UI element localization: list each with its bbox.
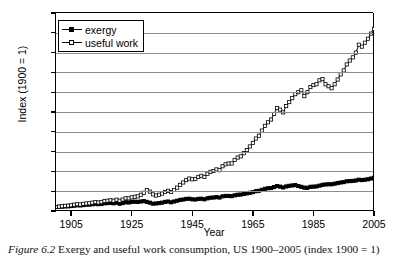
- gridline: [56, 152, 373, 153]
- gridline: [56, 191, 373, 192]
- y-tick-mark: [51, 32, 56, 33]
- gridline: [56, 92, 373, 93]
- y-tick-mark: [51, 191, 56, 192]
- x-tick-label: 2005: [351, 218, 397, 230]
- x-tick-mark: [192, 211, 193, 216]
- y-tick-mark: [51, 12, 56, 13]
- x-tick-mark: [252, 211, 253, 216]
- x-tick-label: 1925: [109, 218, 155, 230]
- figure-caption: Figure 6.2 Exergy and useful work consum…: [8, 243, 400, 256]
- y-tick-mark: [51, 111, 56, 112]
- x-tick-mark: [313, 211, 314, 216]
- x-tick-mark: [131, 211, 132, 216]
- chart-area: Index (1900 = 1) Year 051015202530354045…: [0, 0, 405, 238]
- gridline: [56, 72, 373, 73]
- y-tick-mark: [51, 210, 56, 211]
- figure-container: Index (1900 = 1) Year 051015202530354045…: [0, 0, 405, 278]
- legend-label-useful-work: useful work: [82, 37, 138, 49]
- legend-label-exergy: exergy: [82, 24, 117, 36]
- y-tick-mark: [51, 171, 56, 172]
- chart-legend: exergy useful work: [58, 20, 144, 52]
- x-tick-label: 1985: [290, 218, 336, 230]
- y-tick-mark: [51, 72, 56, 73]
- x-tick-label: 1905: [48, 218, 94, 230]
- y-axis-label: Index (1900 = 1): [16, 14, 28, 154]
- exergy-marker-icon: [62, 24, 82, 36]
- x-tick-mark: [373, 211, 374, 216]
- x-tick-label: 1945: [169, 218, 215, 230]
- gridline: [56, 132, 373, 133]
- x-tick-label: 1965: [230, 218, 276, 230]
- series-useful-work: [56, 27, 374, 208]
- gridline: [56, 53, 373, 54]
- figure-number: Figure 6.2: [8, 243, 55, 255]
- y-tick-mark: [51, 151, 56, 152]
- gridline: [56, 112, 373, 113]
- useful-work-marker-icon: [62, 37, 82, 49]
- figure-caption-text: Exergy and useful work consumption, US 1…: [58, 243, 380, 255]
- x-tick-mark: [70, 211, 71, 216]
- y-tick-mark: [51, 92, 56, 93]
- y-tick-mark: [51, 131, 56, 132]
- y-tick-mark: [51, 52, 56, 53]
- gridline: [56, 171, 373, 172]
- legend-entry-exergy: exergy: [62, 23, 140, 36]
- series-exergy: [56, 176, 374, 208]
- legend-entry-useful-work: useful work: [62, 36, 140, 49]
